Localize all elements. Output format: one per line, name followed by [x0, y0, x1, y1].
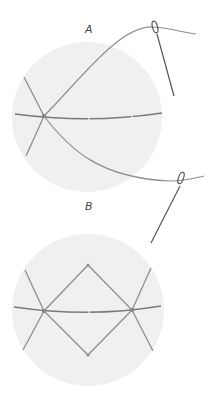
panel-label-a: A: [85, 24, 93, 35]
panel-b: [12, 234, 164, 386]
stitch-point: [87, 264, 90, 267]
panel-label-b: B: [85, 201, 93, 212]
stitch-point: [87, 354, 90, 357]
panel-a: [12, 27, 204, 192]
stitch-diagram: A B: [0, 0, 213, 393]
needle-icon: [151, 172, 185, 243]
diagram-canvas: [0, 0, 213, 393]
